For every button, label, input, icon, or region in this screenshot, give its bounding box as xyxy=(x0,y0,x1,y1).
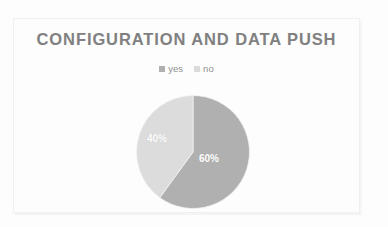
frame-shadow-right xyxy=(360,20,362,214)
pie-slice-label-yes: 60% xyxy=(199,153,219,164)
legend-item-yes[interactable]: yes xyxy=(159,64,183,74)
legend-item-label: no xyxy=(203,64,214,74)
page-title: CONFIGURATION AND DATA PUSH xyxy=(13,30,360,49)
pie-chart-svg xyxy=(136,95,250,209)
legend-item-no[interactable]: no xyxy=(194,64,214,74)
pie-chart: 40% 60% xyxy=(136,95,250,209)
pie-slice-label-no: 40% xyxy=(147,133,167,144)
chart-legend: yes no xyxy=(13,64,360,74)
square-marker-icon-no xyxy=(194,66,200,72)
square-marker-icon-yes xyxy=(159,66,165,72)
legend-item-label: yes xyxy=(168,64,183,74)
frame-shadow-bottom xyxy=(15,213,362,215)
slide-canvas: CONFIGURATION AND DATA PUSH yes no 40% 6… xyxy=(0,0,388,227)
